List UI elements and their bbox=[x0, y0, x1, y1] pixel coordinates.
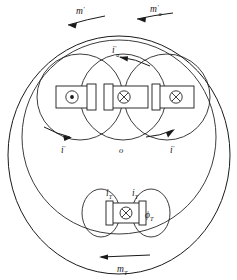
arrowhead bbox=[99, 255, 108, 260]
right-coil bbox=[152, 84, 194, 110]
label-prime: ′ bbox=[64, 144, 66, 152]
outer-boundary-loop bbox=[8, 36, 230, 274]
physics-field-diagram: m′ m′a i′a i′ o i′ bbox=[0, 0, 237, 280]
svg-text:m′a: m′a bbox=[150, 3, 162, 18]
right-current-label: i′ bbox=[170, 144, 175, 156]
svg-text:i′a: i′a bbox=[112, 44, 119, 59]
svg-text:mT: mT bbox=[117, 264, 128, 276]
right-coil-end-cap bbox=[152, 84, 160, 110]
left-current-label: i′ bbox=[61, 144, 66, 156]
svg-text:m′: m′ bbox=[76, 5, 85, 16]
lower-coil-end-cap-left bbox=[106, 201, 113, 225]
svg-text:i′: i′ bbox=[61, 144, 66, 156]
top-left-moment-label: m′ bbox=[76, 5, 85, 16]
svg-text:iT: iT bbox=[132, 188, 139, 200]
upper-center-current-label: i′a bbox=[112, 44, 119, 59]
svg-text:i′: i′ bbox=[170, 144, 175, 156]
label-prime: ′ bbox=[173, 144, 175, 152]
label-sub: T bbox=[124, 269, 128, 276]
lower-coil bbox=[106, 201, 146, 225]
bottom-moment-label: mT bbox=[117, 264, 128, 276]
label-sub: T bbox=[150, 215, 154, 222]
left-coil bbox=[56, 84, 96, 110]
label-prime: ′ bbox=[83, 5, 85, 13]
lower-right-current-label: iT bbox=[132, 188, 139, 200]
label-sub: a bbox=[158, 10, 161, 17]
bottom-moment-arrow bbox=[99, 255, 150, 260]
top-left-moment-arrow bbox=[68, 16, 105, 29]
dot-icon bbox=[70, 95, 74, 99]
upper-center-current-arrow bbox=[119, 56, 150, 66]
origin-label: o bbox=[119, 145, 123, 155]
center-coil-end-cap bbox=[104, 84, 113, 110]
label-sub: a bbox=[116, 51, 119, 58]
origin-text: o bbox=[119, 145, 123, 155]
label-sub: T bbox=[135, 193, 139, 200]
top-right-moment-arrow bbox=[137, 13, 173, 23]
left-coil-end-cap bbox=[87, 84, 96, 110]
top-right-moment-label: m′a bbox=[150, 3, 162, 18]
label-sub: T bbox=[109, 193, 113, 200]
arrowhead bbox=[166, 129, 175, 137]
arrowhead bbox=[119, 56, 128, 61]
lower-left-current-label: iT bbox=[106, 188, 113, 200]
center-coil bbox=[104, 84, 148, 110]
svg-text:iT: iT bbox=[106, 188, 113, 200]
